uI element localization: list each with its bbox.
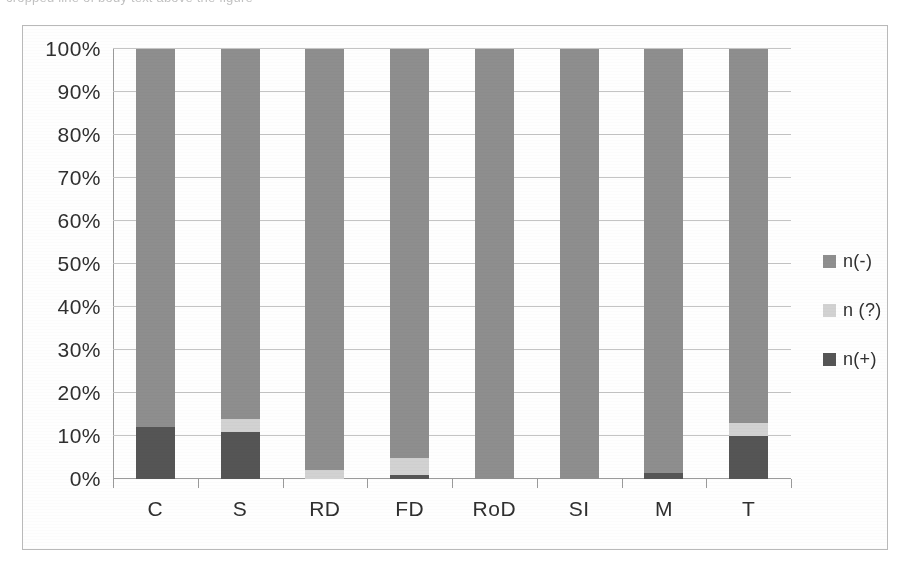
y-axis-tick-label: 30% — [57, 338, 101, 362]
x-axis-tick — [706, 479, 707, 488]
stacked-bar[interactable] — [560, 49, 599, 479]
legend-item-label: n(+) — [843, 349, 877, 370]
y-axis-tick-label: 20% — [57, 381, 101, 405]
bar-group: C — [113, 49, 198, 479]
bar-segment[interactable] — [305, 470, 344, 479]
y-axis-tick-label: 100% — [45, 37, 101, 61]
x-axis-category-label-rd: RD — [309, 497, 340, 521]
y-axis-tick-label: 0% — [70, 467, 101, 491]
legend-item-label: n(-) — [843, 251, 872, 272]
bar-group: FD — [367, 49, 452, 479]
cropped-text-line: cropped line of body text above the figu… — [6, 0, 253, 5]
y-axis-tick-label: 70% — [57, 166, 101, 190]
x-axis-category-label-si: SI — [569, 497, 590, 521]
bar-group: RoD — [452, 49, 537, 479]
bar-group: SI — [537, 49, 622, 479]
legend-item[interactable]: n (?) — [823, 300, 889, 321]
bar-segment[interactable] — [390, 49, 429, 458]
legend-item[interactable]: n(+) — [823, 349, 889, 370]
bar-segment[interactable] — [729, 436, 768, 479]
y-axis-tick-label: 50% — [57, 252, 101, 276]
x-axis-tick — [113, 479, 114, 488]
legend-item-label: n (?) — [843, 300, 882, 321]
stacked-bar[interactable] — [475, 49, 514, 479]
x-axis-tick — [283, 479, 284, 488]
bar-segment[interactable] — [390, 475, 429, 479]
chart-legend: n(-)n (?)n(+) — [823, 251, 889, 398]
bar-segment[interactable] — [644, 49, 683, 473]
stacked-bar[interactable] — [390, 49, 429, 479]
x-axis-category-label-fd: FD — [395, 497, 424, 521]
bar-segment[interactable] — [560, 49, 599, 479]
x-axis-tick — [198, 479, 199, 488]
stacked-bar[interactable] — [136, 49, 175, 479]
stacked-bar[interactable] — [644, 49, 683, 479]
x-axis-category-label-t: T — [742, 497, 755, 521]
y-axis-tick-label: 60% — [57, 209, 101, 233]
stacked-bar[interactable] — [221, 49, 260, 479]
bar-segment[interactable] — [221, 419, 260, 432]
x-axis-category-label-rod: RoD — [473, 497, 517, 521]
y-axis-tick-label: 80% — [57, 123, 101, 147]
cropped-text-above-figure: cropped line of body text above the figu… — [0, 0, 912, 14]
bar-group: S — [198, 49, 283, 479]
bar-group: T — [706, 49, 791, 479]
legend-swatch-n-question — [823, 304, 836, 317]
legend-swatch-n-minus — [823, 255, 836, 268]
legend-item[interactable]: n(-) — [823, 251, 889, 272]
bar-segment[interactable] — [475, 49, 514, 479]
bar-segment[interactable] — [390, 458, 429, 475]
bar-segment[interactable] — [136, 49, 175, 427]
x-axis-category-label-m: M — [655, 497, 673, 521]
x-axis-tick — [791, 479, 792, 488]
plot-area: 0%10%20%30%40%50%60%70%80%90%100%CSRDFDR… — [113, 49, 791, 479]
x-axis-tick — [452, 479, 453, 488]
bar-segment[interactable] — [221, 432, 260, 479]
bar-segment[interactable] — [729, 49, 768, 423]
bar-segment[interactable] — [729, 423, 768, 436]
legend-swatch-n-plus — [823, 353, 836, 366]
x-axis-category-label-c: C — [148, 497, 164, 521]
x-axis-tick — [537, 479, 538, 488]
y-axis-tick-label: 10% — [57, 424, 101, 448]
bar-segment[interactable] — [305, 49, 344, 470]
bar-group: M — [622, 49, 707, 479]
bar-segment[interactable] — [644, 473, 683, 479]
chart-frame: 0%10%20%30%40%50%60%70%80%90%100%CSRDFDR… — [22, 25, 888, 550]
bar-segment[interactable] — [136, 427, 175, 479]
y-axis-tick-label: 90% — [57, 80, 101, 104]
x-axis-tick — [367, 479, 368, 488]
stacked-bar[interactable] — [305, 49, 344, 479]
bar-segment[interactable] — [221, 49, 260, 419]
x-axis-tick — [622, 479, 623, 488]
bar-group: RD — [283, 49, 368, 479]
y-axis-tick-label: 40% — [57, 295, 101, 319]
stacked-bar[interactable] — [729, 49, 768, 479]
x-axis-category-label-s: S — [233, 497, 248, 521]
